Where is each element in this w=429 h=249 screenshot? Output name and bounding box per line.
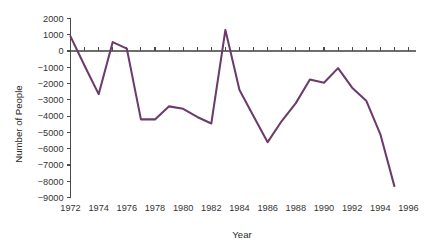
y-tick-label: 1000 [43, 30, 63, 40]
x-tick-label: 1974 [88, 203, 108, 213]
y-tick-label: −4000 [38, 111, 64, 121]
x-tick-label: 1986 [257, 203, 277, 213]
y-tick-label: −8000 [38, 177, 64, 187]
y-tick-label: −3000 [38, 95, 64, 105]
y-tick-label: −9000 [38, 193, 64, 203]
y-tick-label: −7000 [38, 160, 64, 170]
x-tick-label: 1972 [60, 203, 80, 213]
line-chart-canvas: 200010000−1000−2000−3000−4000−5000−6000−… [0, 0, 429, 249]
x-tick-label: 1978 [145, 203, 165, 213]
x-tick-label: 1980 [173, 203, 193, 213]
x-tick-label: 1988 [286, 203, 306, 213]
y-axis-title: Number of People [13, 85, 24, 162]
y-tick-label: −1000 [38, 63, 64, 73]
x-tick-label: 1984 [229, 203, 249, 213]
chart-figure: 200010000−1000−2000−3000−4000−5000−6000−… [0, 0, 429, 249]
y-tick-label: −2000 [38, 79, 64, 89]
x-tick-label: 1982 [201, 203, 221, 213]
x-tick-label: 1994 [370, 203, 390, 213]
x-axis-title: Year [232, 229, 252, 240]
y-tick-label: 0 [58, 46, 63, 56]
x-tick-label: 1996 [398, 203, 418, 213]
x-tick-label: 1992 [342, 203, 362, 213]
x-tick-label: 1976 [117, 203, 137, 213]
y-tick-label: −6000 [38, 144, 64, 154]
y-tick-label: 2000 [43, 14, 63, 24]
x-tick-label: 1990 [314, 203, 334, 213]
y-tick-label: −5000 [38, 128, 64, 138]
